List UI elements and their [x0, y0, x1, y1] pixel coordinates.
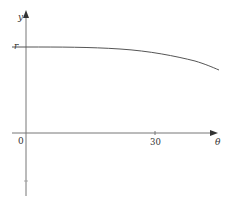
y-axis-arrow-icon	[23, 10, 29, 18]
x-tick-label-30: 30	[150, 137, 161, 147]
curve	[12, 47, 219, 70]
plot-area: y r 0 30 θ	[0, 0, 226, 199]
y-axis-label: y	[17, 12, 24, 22]
x-axis-arrow-icon	[210, 130, 218, 136]
r-label: r	[14, 41, 19, 51]
origin-label: 0	[18, 136, 24, 146]
x-axis-label: θ	[215, 137, 221, 147]
